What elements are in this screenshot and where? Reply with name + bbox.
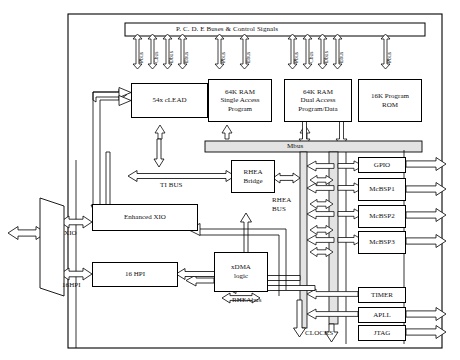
external-pad-left (40, 198, 64, 296)
clocks-label: CLOCKS (305, 329, 333, 337)
bus-label-ebus-ramda: Ebus (338, 52, 344, 63)
block-enhanced-xio[interactable]: Enhanced XIO (92, 204, 198, 231)
bus-label-ebus-clead: Ebus (183, 52, 189, 63)
xdma-line2: logic (234, 272, 248, 281)
ti-bus-label: TI BUS (160, 181, 183, 189)
bus-label-pbus-rom: Pbus (386, 52, 392, 63)
ti-bus-arrow (128, 171, 235, 182)
bus-label-ebus-ramsa: Ebus (245, 52, 251, 63)
port-label-xio: XIO (64, 229, 77, 237)
mcbsp1-label: McBSP1 (369, 185, 394, 194)
block-16-hpi[interactable]: 16 HPI (92, 262, 178, 287)
ram-da-line3: Program/Data (298, 105, 337, 114)
block-apll[interactable]: APLL (358, 307, 406, 323)
hpi-label: 16 HPI (125, 270, 145, 279)
timer-label: TIMER (371, 291, 393, 300)
ram-sa-line2: Single Access (220, 96, 259, 105)
block-mcbsp1[interactable]: McBSP1 (358, 178, 406, 201)
bus-label-pbus-clead: Pbus (138, 52, 144, 63)
block-mcbsp3[interactable]: McBSP3 (358, 231, 406, 254)
block-diagram: P. C. D. E Buses & Control Signals Pbus … (0, 0, 460, 360)
block-program-rom[interactable]: 16K Program ROM (358, 79, 422, 122)
bus-label-dbus-clead: Dbus (168, 51, 174, 63)
rhea-bus-label-line1: RHEA (272, 196, 291, 204)
top-bus-label: P. C. D. E Buses & Control Signals (176, 25, 278, 33)
block-rhea-bridge[interactable]: RHEA Bridge (231, 160, 275, 193)
mbus-label: Mbus (287, 142, 303, 150)
rom-line2: ROM (382, 101, 398, 110)
block-clead[interactable]: 54x cLEAD (131, 83, 208, 118)
block-ram-dual-access[interactable]: 64K RAM Dual Access Program/Data (284, 79, 352, 122)
clead-feedback-wires (91, 88, 131, 217)
rheabus-label: RHEAbus (232, 296, 261, 304)
port-label-16hpi: 16HPI (62, 281, 81, 289)
bus-label-dbus-ramda: Dbus (323, 51, 329, 63)
bus-label-cbus-clead: Cbus (153, 51, 159, 63)
xdma-line1: xDMA (231, 263, 251, 272)
rom-line1: 16K Program (371, 92, 409, 101)
mcbsp2-label: McBSP2 (369, 212, 394, 221)
jtag-label: JTAG (374, 329, 391, 338)
bus-label-pbus-ramsa: Pbus (220, 52, 226, 63)
ram-da-line2: Dual Access (301, 96, 336, 105)
gpio-label: GPIO (374, 161, 390, 170)
ram-sa-line3: Program (228, 105, 252, 114)
apll-label: APLL (373, 311, 391, 320)
block-mcbsp2[interactable]: McBSP2 (358, 205, 406, 228)
rhea-bus-label-line2: BUS (272, 205, 286, 213)
mbus-bar (205, 141, 422, 152)
bridge-to-rheabus-arrow (273, 173, 300, 183)
block-gpio[interactable]: GPIO (358, 157, 406, 173)
ram-sa-line1: 64K RAM (225, 88, 255, 97)
ram-da-line1: 64K RAM (303, 88, 333, 97)
block-jtag[interactable]: JTAG (358, 325, 406, 341)
mcbsp3-label: McBSP3 (369, 238, 394, 247)
bus-label-pbus-ramda: Pbus (293, 52, 299, 63)
block-xdma-logic[interactable]: xDMA logic (214, 252, 268, 292)
rhea-bridge-line1: RHEA (243, 168, 262, 177)
rhea-bridge-line2: Bridge (243, 177, 262, 186)
block-ram-single-access[interactable]: 64K RAM Single Access Program (208, 79, 272, 122)
block-timer[interactable]: TIMER (358, 287, 406, 303)
bus-label-cbus-ramda: Cbus (308, 51, 314, 63)
clead-down-arrow (154, 139, 164, 167)
enhanced-xio-label: Enhanced XIO (124, 213, 166, 222)
block-clead-label: 54x cLEAD (152, 96, 186, 105)
